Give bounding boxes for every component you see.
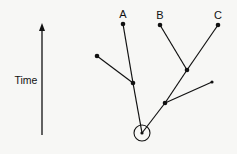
node-junction-BC [185, 68, 190, 73]
leaf-labels: A B C [119, 8, 222, 21]
tree-branch [142, 103, 165, 133]
tree-nodes [95, 22, 221, 135]
node-junction-left [131, 81, 136, 86]
label-A: A [119, 8, 127, 20]
time-arrow-head-icon [39, 23, 45, 31]
time-axis-label: Time [15, 74, 38, 86]
phylogenetic-tree-diagram: Time A B C [0, 0, 237, 154]
tree-branch [123, 24, 133, 83]
tree-branch [187, 25, 218, 70]
node-junction-lower-right [163, 101, 168, 106]
node-leaf-short-right [210, 80, 213, 83]
node-leaf-left [95, 54, 100, 59]
node-root [140, 131, 143, 134]
tree-branch [97, 56, 133, 83]
node-leaf-B [158, 23, 163, 28]
node-leaf-A [121, 22, 126, 27]
label-B: B [156, 9, 163, 21]
node-leaf-C [216, 23, 221, 28]
tree-branch [160, 25, 187, 70]
time-axis: Time [15, 23, 45, 135]
tree-edges [97, 24, 218, 133]
tree: A B C [95, 8, 222, 141]
label-C: C [214, 9, 222, 21]
